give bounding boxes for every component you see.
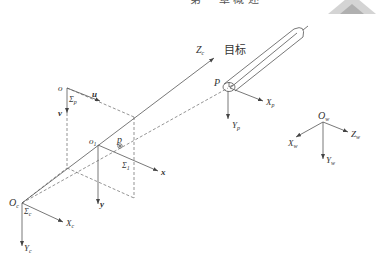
pixel-u-label: u	[92, 89, 97, 99]
image-x-label: x	[160, 167, 166, 177]
target-frame	[228, 88, 263, 119]
projection-planes	[22, 88, 228, 203]
coordinate-frames-diagram: 第 一 章 概 述	[0, 0, 377, 259]
world-z-label: Zw	[351, 129, 360, 140]
image-y-label: y	[99, 199, 105, 209]
camera-z-axis	[22, 58, 214, 203]
image-origin-label: o1	[89, 136, 97, 147]
world-y-label: Yw	[326, 155, 335, 166]
image-frame-label: Σ1	[121, 161, 130, 171]
target-label: 目标	[224, 43, 246, 57]
watermark-logo	[328, 0, 376, 14]
world-frame	[296, 122, 348, 159]
target-point-label: P	[213, 77, 220, 88]
clipped-header-text: 第 一 章 概 述	[190, 0, 259, 6]
clipped-header: 第 一 章 概 述	[190, 0, 259, 6]
world-origin-label: Ow	[318, 110, 329, 122]
camera-frame	[22, 58, 214, 246]
target-x-label: Xp	[265, 97, 275, 108]
target-cylinder	[223, 26, 308, 92]
camera-y-label: Yc	[24, 243, 32, 254]
camera-z-label: Zc	[196, 44, 205, 56]
pixel-origin-label: o	[58, 83, 63, 93]
camera-x-label: Xc	[65, 218, 75, 229]
image-point-label: p	[116, 134, 122, 145]
pixel-v-label: v	[58, 108, 63, 118]
target-y-label: Yp	[232, 120, 240, 131]
camera-origin-label: Oc	[9, 197, 19, 209]
world-x-label: Xw	[287, 138, 298, 149]
camera-frame-label: Σc	[23, 207, 32, 217]
pixel-frame-label: Σp	[68, 95, 77, 105]
